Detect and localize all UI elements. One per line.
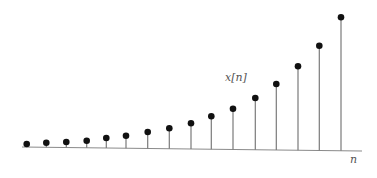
stem-marker bbox=[43, 139, 50, 146]
stem-marker bbox=[273, 81, 280, 88]
stem-marker bbox=[252, 95, 259, 102]
stem-marker bbox=[83, 137, 90, 144]
stems-group bbox=[27, 17, 341, 150]
stem-marker bbox=[338, 14, 345, 21]
stem-marker bbox=[166, 125, 173, 132]
stem-marker bbox=[208, 113, 215, 120]
stem-marker bbox=[316, 42, 323, 49]
dots-group bbox=[23, 14, 344, 147]
stem-marker bbox=[144, 129, 151, 136]
stem-marker bbox=[295, 63, 302, 70]
x-axis-line bbox=[22, 147, 362, 151]
stem-plot bbox=[0, 0, 377, 178]
y-axis-label: x[n] bbox=[225, 72, 247, 83]
stem-marker bbox=[123, 132, 130, 139]
stem-marker bbox=[103, 135, 110, 142]
stem-marker bbox=[63, 139, 70, 146]
x-axis-label: n bbox=[350, 154, 357, 165]
stem-marker bbox=[230, 105, 237, 112]
stem-marker bbox=[23, 141, 30, 148]
stem-marker bbox=[188, 120, 195, 127]
